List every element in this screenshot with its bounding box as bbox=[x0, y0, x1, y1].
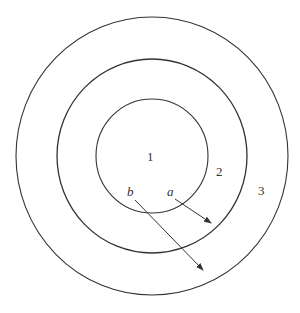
arrow-a-label: a bbox=[167, 184, 174, 199]
concentric-circles-diagram: 1 2 3 a b bbox=[0, 0, 300, 313]
region-3-label: 3 bbox=[258, 183, 265, 198]
arrow-a bbox=[175, 199, 211, 223]
arrow-b-label: b bbox=[127, 184, 134, 199]
region-2-label: 2 bbox=[216, 164, 223, 179]
region-1-label: 1 bbox=[147, 149, 154, 164]
